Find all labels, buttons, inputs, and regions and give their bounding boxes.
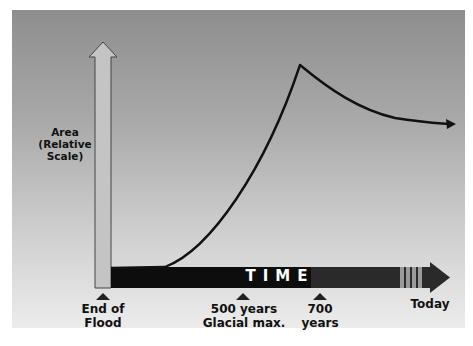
marker-triangle-icon bbox=[236, 293, 250, 300]
marker-label: End of bbox=[73, 302, 133, 316]
y-axis-arrow-icon bbox=[89, 42, 117, 288]
y-axis-label-line1: Area bbox=[20, 126, 110, 138]
marker-label: years bbox=[290, 316, 350, 330]
diagram-canvas bbox=[0, 0, 473, 346]
marker-label: 500 years bbox=[198, 302, 290, 316]
area-curve bbox=[111, 65, 448, 268]
marker-label: Today bbox=[400, 297, 460, 311]
y-axis-label-line2: (Relative Scale) bbox=[20, 138, 110, 162]
marker-end-of-flood: End of Flood bbox=[73, 302, 133, 330]
marker-triangle-icon bbox=[313, 293, 327, 300]
marker-700-years: 700 years bbox=[290, 302, 350, 330]
y-axis-label: Area (Relative Scale) bbox=[20, 126, 110, 162]
marker-today: Today bbox=[400, 297, 460, 311]
marker-500-years: 500 years Glacial max. bbox=[198, 302, 290, 330]
marker-triangle-icon bbox=[96, 293, 110, 300]
marker-label: Flood bbox=[73, 316, 133, 330]
time-label: TIME bbox=[225, 267, 335, 285]
marker-label: Glacial max. bbox=[198, 316, 290, 330]
marker-label: 700 bbox=[290, 302, 350, 316]
curve-arrowhead-icon bbox=[446, 119, 456, 129]
